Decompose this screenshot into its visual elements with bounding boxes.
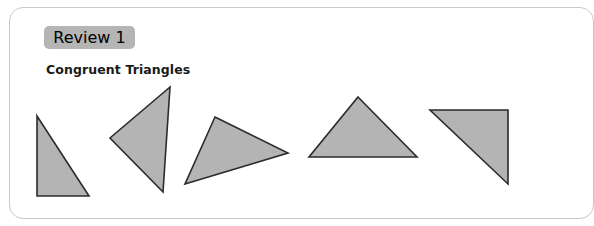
review-badge: Review 1: [44, 26, 135, 49]
worksheet-card: Review 1 Congruent Triangles: [9, 7, 594, 219]
review-badge-label: Review 1: [53, 28, 125, 47]
page-title: Congruent Triangles: [46, 62, 190, 77]
